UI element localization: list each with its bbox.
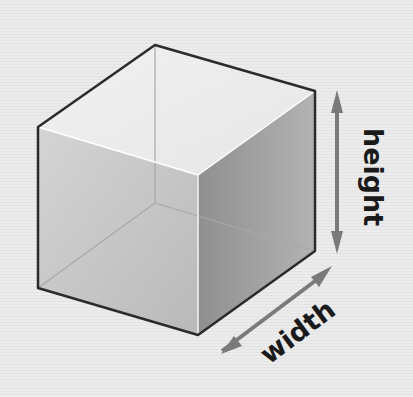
cube-diagram: height width xyxy=(0,0,413,397)
height-arrow xyxy=(331,90,343,254)
width-label: width xyxy=(254,293,341,369)
height-label: height xyxy=(358,128,389,226)
cube xyxy=(38,45,315,335)
